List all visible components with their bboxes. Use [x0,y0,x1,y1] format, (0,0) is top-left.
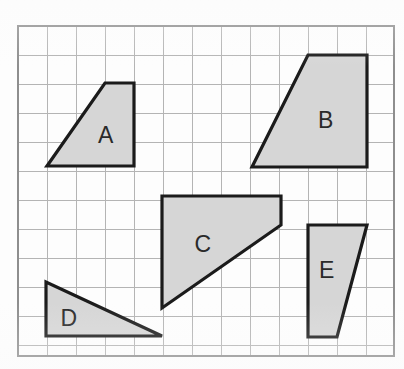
shape-label-a: A [98,122,114,148]
shape-label-c: C [194,231,211,257]
shape-label-b: B [318,107,334,133]
shape-label-d: D [60,305,77,331]
figure-canvas: ABCDE [0,0,404,369]
shape-label-e: E [319,257,335,283]
geometry-figure: ABCDE [0,0,404,369]
